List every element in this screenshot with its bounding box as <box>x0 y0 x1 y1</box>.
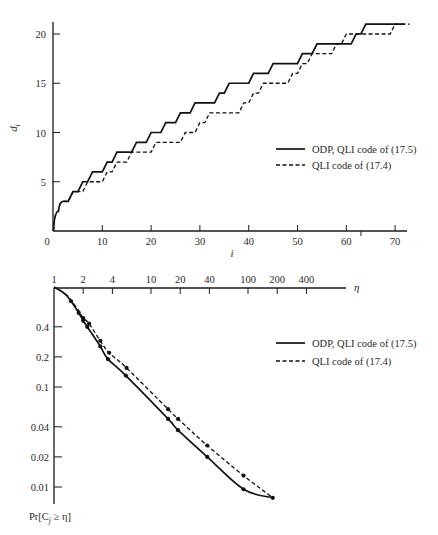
x-tick-label: 200 <box>269 274 285 285</box>
top-legend: ODP, QLI code of (17.5) QLI code of (17.… <box>276 144 417 172</box>
y-tick-label: 10 <box>36 128 47 139</box>
x-tick-label: 70 <box>390 236 401 247</box>
x-tick-label: 30 <box>195 236 206 247</box>
top-chart: 010203040506070 5101520 i di ODP, QLI co… <box>7 22 417 259</box>
legend-dashed-label: QLI code of (17.4) <box>312 356 392 368</box>
data-point-marker <box>271 496 275 500</box>
x-tick-label: 0 <box>44 236 49 247</box>
solid-series-line <box>54 24 405 231</box>
y-tick-label: 15 <box>36 78 47 89</box>
x-tick-label: 10 <box>146 274 157 285</box>
x-tick-label: 4 <box>110 274 116 285</box>
data-point-marker <box>98 339 102 343</box>
data-point-marker <box>124 374 128 378</box>
data-point-marker <box>87 322 91 326</box>
x-tick-label: 40 <box>204 274 215 285</box>
x-tick-label: 2 <box>81 274 86 285</box>
bottom-x-axis-label: η <box>354 281 359 293</box>
legend-solid-label: ODP, QLI code of (17.5) <box>312 144 417 156</box>
top-x-axis-label: i <box>230 247 233 259</box>
data-point-marker <box>106 357 110 361</box>
bottom-y-axis-label: Pr[Cj ≥ η] <box>29 511 71 525</box>
bottom-y-ticks: 0.40.20.10.040.020.01 <box>31 322 62 493</box>
data-point-marker <box>241 487 245 491</box>
data-point-marker <box>205 455 209 459</box>
x-tick-label: 400 <box>299 274 315 285</box>
top-axes <box>53 22 407 231</box>
bottom-axes <box>54 288 346 504</box>
y-tick-label: 0.04 <box>31 422 50 433</box>
data-point-marker <box>107 351 111 355</box>
y-tick-label: 0.4 <box>36 322 50 333</box>
dashed-series-line <box>54 24 410 231</box>
data-point-marker <box>77 311 81 315</box>
top-x-ticks: 010203040506070 <box>44 225 400 247</box>
top-series-lines <box>54 24 410 231</box>
y-tick-label: 0.01 <box>31 482 49 493</box>
bottom-x-ticks: 124102040100200400 <box>51 274 314 294</box>
data-point-marker <box>166 417 170 421</box>
x-tick-label: 20 <box>175 274 186 285</box>
data-point-marker <box>124 366 128 370</box>
y-tick-label: 0.02 <box>31 452 49 463</box>
data-point-marker <box>176 428 180 432</box>
x-tick-label: 60 <box>341 236 352 247</box>
data-point-marker <box>176 417 180 421</box>
legend-dashed-label: QLI code of (17.4) <box>312 160 392 172</box>
data-point-marker <box>69 299 73 303</box>
y-tick-label: 0.2 <box>36 352 49 363</box>
x-tick-label: 40 <box>243 236 254 247</box>
x-tick-label: 20 <box>146 236 157 247</box>
bottom-chart: 124102040100200400 0.40.20.10.040.020.01… <box>29 274 417 525</box>
y-tick-label: 20 <box>36 29 47 40</box>
solid-series-curve <box>54 287 273 498</box>
data-point-marker <box>81 316 85 320</box>
data-point-marker <box>98 344 102 348</box>
top-y-ticks: 5101520 <box>36 29 61 188</box>
x-tick-label: 1 <box>51 274 56 285</box>
x-tick-label: 10 <box>97 236 108 247</box>
dashed-series-curve <box>54 287 273 498</box>
x-tick-label: 50 <box>292 236 303 247</box>
bottom-legend: ODP, QLI code of (17.5) QLI code of (17.… <box>276 338 417 368</box>
y-tick-label: 0.1 <box>36 382 49 393</box>
y-tick-label: 5 <box>41 177 46 188</box>
x-tick-label: 100 <box>240 274 256 285</box>
top-y-axis-label: di <box>7 124 22 132</box>
data-point-marker <box>166 407 170 411</box>
figure: 010203040506070 5101520 i di ODP, QLI co… <box>0 0 438 535</box>
data-point-marker <box>205 443 209 447</box>
legend-solid-label: ODP, QLI code of (17.5) <box>312 338 417 350</box>
bottom-series-lines <box>54 287 275 500</box>
data-point-marker <box>241 474 245 478</box>
